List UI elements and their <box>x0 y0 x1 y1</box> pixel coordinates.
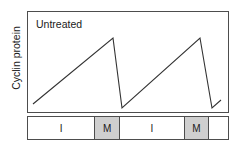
phase-cell-label: M <box>192 123 200 134</box>
phase-cell-label: I <box>150 123 153 134</box>
cell-cycle-phase-bar: IMIM <box>27 116 229 140</box>
cyclin-protein-figure: Cyclin protein Untreated IMIM <box>0 0 243 146</box>
phase-cell-label: M <box>103 123 111 134</box>
phase-cell-blank-4 <box>209 117 228 139</box>
phase-cell-label: I <box>60 123 63 134</box>
phase-cell-m-1: M <box>95 117 120 139</box>
plot-area: Untreated <box>27 11 229 113</box>
phase-cell-i-2: I <box>120 117 184 139</box>
plot-annotation-untreated: Untreated <box>36 18 82 30</box>
y-axis-label: Cyclin protein <box>10 6 22 110</box>
phase-cell-i-0: I <box>28 117 95 139</box>
phase-cell-m-3: M <box>185 117 210 139</box>
